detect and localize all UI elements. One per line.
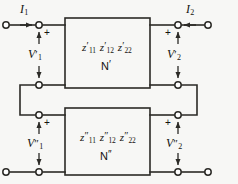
node-ndoubleprime-top-left (36, 112, 42, 118)
voltage-label-v1-prime-subscript: 1 (38, 53, 42, 62)
node-top-right (175, 22, 181, 28)
impedance-param-z12-doubleprime: z″12 (100, 131, 116, 143)
voltage-label-v1-doubleprime: V″1 (27, 137, 43, 151)
network-label-n-doubleprime-symbol: N (100, 150, 108, 162)
polarity-plus-v1-doubleprime: + (44, 118, 50, 128)
impedance-param-z22-doubleprime-subscript: 22 (129, 136, 136, 145)
node-nprime-bottom-right (175, 82, 181, 88)
node-bottom-right (175, 169, 181, 175)
circuit-schematic-canvas (0, 0, 238, 184)
current-label-i2: I2 (186, 3, 194, 17)
impedance-param-z12-prime: z′12 (100, 41, 114, 53)
terminal-output-bottom (205, 169, 211, 175)
node-top-left (36, 22, 42, 28)
node-ndoubleprime-top-right (175, 112, 181, 118)
impedance-parameters-n-prime: z′11z′12z′22 (82, 40, 136, 54)
impedance-param-z11-prime: z′11 (82, 41, 96, 53)
network-label-n-prime-prime: ′ (109, 59, 111, 70)
impedance-param-z22-prime-subscript: 22 (125, 46, 132, 55)
voltage-label-v2-prime-subscript: 2 (177, 53, 181, 62)
network-label-n-prime-symbol: N (101, 60, 109, 72)
node-bottom-left (36, 169, 42, 175)
current-label-i1: I1 (20, 3, 28, 17)
terminal-output-top (205, 22, 211, 28)
terminal-input-top (3, 22, 9, 28)
impedance-parameters-n-doubleprime: z″11z″12z″22 (80, 130, 140, 144)
polarity-plus-v1-prime: + (44, 28, 50, 38)
network-label-n-doubleprime: N″ (100, 150, 112, 162)
polarity-plus-v2-doubleprime: + (165, 118, 171, 128)
wire-right-series-interconnect (178, 85, 197, 115)
impedance-param-z22-doubleprime: z″22 (120, 131, 136, 143)
terminal-input-bottom (3, 169, 9, 175)
current-label-i2-subscript: 2 (190, 8, 194, 17)
impedance-param-z11-prime-subscript: 11 (89, 46, 96, 55)
network-label-n-doubleprime-prime: ″ (108, 149, 112, 160)
current-label-i1-subscript: 1 (24, 8, 28, 17)
impedance-param-z12-prime-subscript: 12 (107, 46, 114, 55)
wire-left-series-interconnect (20, 85, 39, 115)
impedance-param-z11-doubleprime-subscript: 11 (89, 136, 96, 145)
impedance-param-z12-doubleprime-subscript: 12 (109, 136, 116, 145)
voltage-label-v2-prime: V′2 (167, 48, 181, 62)
impedance-param-z22-prime: z′22 (118, 41, 132, 53)
impedance-param-z11-doubleprime: z″11 (80, 131, 96, 143)
node-nprime-bottom-left (36, 82, 42, 88)
voltage-label-v1-doubleprime-subscript: 1 (39, 142, 43, 151)
voltage-label-v2-doubleprime-subscript: 2 (178, 142, 182, 151)
network-label-n-prime: N′ (101, 60, 111, 72)
polarity-plus-v2-prime: + (165, 28, 171, 38)
voltage-label-v2-doubleprime: V″2 (166, 137, 182, 151)
voltage-label-v1-prime: V′1 (28, 48, 42, 62)
circuit-diagram: I1 I2 + V′1 + V′2 + V″1 + V″2 z′11z′12z′… (0, 0, 238, 184)
